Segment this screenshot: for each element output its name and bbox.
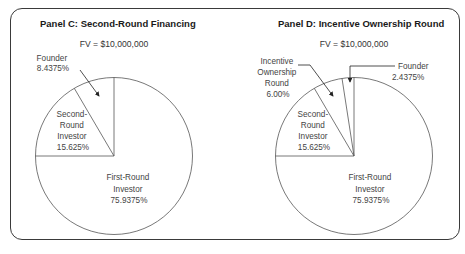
- panel-d-title: Panel D: Incentive Ownership Round: [278, 18, 444, 29]
- pie-charts: Panel C: Second-Round Financing FV = $10…: [0, 0, 465, 254]
- panel-d-founder-label: Founder 2.4375%: [392, 62, 431, 82]
- panel-c-subtitle: FV = $10,000,000: [80, 39, 149, 49]
- panel-c-second-label: Second- Round Investor 15.625%: [57, 110, 90, 152]
- panel-d-incentive-arrow: [298, 65, 333, 96]
- panel-d-subtitle: FV = $10,000,000: [320, 39, 389, 49]
- panel-d-incentive-label: Incentive Ownership Round 6.00%: [257, 57, 298, 99]
- panel-d-second-label: Second- Round Investor 15.625%: [298, 110, 331, 152]
- panel-d-radius-founder: [342, 78, 354, 156]
- panel-c-title: Panel C: Second-Round Financing: [40, 18, 196, 29]
- panel-c-founder-label: Founder 8.4375%: [37, 54, 70, 73]
- panel-d-first-label: First-Round Investor 75.9375%: [348, 173, 393, 205]
- panel-c-first-label: First-Round Investor 75.9375%: [106, 173, 151, 205]
- panel-c-founder-arrow: [80, 70, 99, 96]
- panel-d: Panel D: Incentive Ownership Round FV = …: [257, 18, 444, 235]
- panel-c: Panel C: Second-Round Financing FV = $10…: [36, 18, 196, 235]
